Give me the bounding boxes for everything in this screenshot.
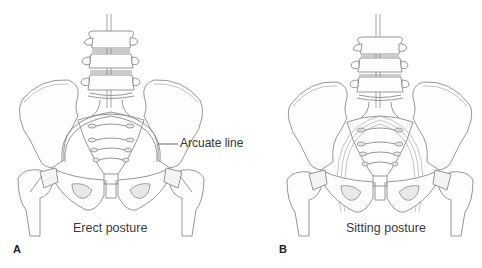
panel-b-sitting: Sitting posture B — [241, 0, 482, 268]
lumbar-vertebrae — [350, 37, 409, 101]
sacrum — [347, 116, 413, 176]
right-ilium — [413, 82, 472, 170]
lumbar-vertebrae — [81, 31, 140, 99]
panel-label-b: B — [279, 243, 287, 255]
caption-sitting-posture: Sitting posture — [346, 221, 426, 235]
panel-a-erect: Arcuate line Erect posture A — [0, 0, 241, 268]
arcuate-line-label: Arcuate line — [180, 136, 243, 150]
panel-label-a: A — [13, 243, 21, 255]
right-ilium — [144, 80, 203, 168]
left-ilium — [19, 80, 78, 168]
left-ilium — [288, 82, 347, 170]
caption-erect-posture: Erect posture — [73, 221, 147, 235]
